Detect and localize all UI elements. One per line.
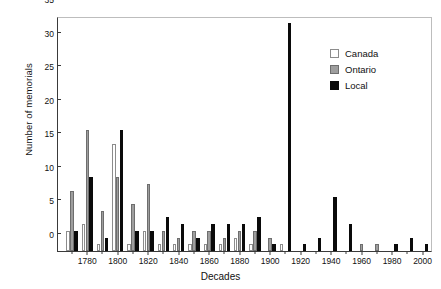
y-tick-label: 5 [49,196,58,206]
x-axis-label: Decades [0,271,441,282]
y-axis-label: Number of memorials [23,30,34,190]
bar-local-2000 [425,244,428,251]
bar-local-1860 [211,224,214,251]
bar-canada-1830 [158,244,161,251]
y-tick-20: 20 [45,90,58,108]
bar-local-1920 [303,244,306,251]
bar-ontario-1780 [86,130,89,251]
y-tick-mark [58,233,61,234]
bar-local-1900 [272,244,275,251]
y-tick-5: 5 [49,190,58,208]
legend-label-canada: Canada [345,48,378,59]
chart-legend: CanadaOntarioLocal [330,48,378,96]
y-tick-10: 10 [45,157,58,175]
x-tick-label-1940: 1940 [322,256,341,266]
y-tick-mark [58,32,61,33]
x-tick-1900 [270,251,271,255]
x-tick-1880 [239,251,240,255]
y-tick-label: 25 [45,62,58,72]
bar-local-1940 [333,197,336,251]
x-tick-1940 [331,251,332,255]
x-tick-1870 [224,251,225,254]
bar-canada-1910 [280,244,283,251]
x-tick-2000 [422,251,423,255]
x-tick-1920 [300,251,301,255]
x-tick-label-1880: 1880 [230,256,249,266]
y-tick-label: 0 [49,230,58,240]
bar-ontario-1810 [131,204,134,251]
x-tick-label-1980: 1980 [383,256,402,266]
x-tick-1770 [71,251,72,254]
bar-canada-1790 [97,244,100,251]
x-tick-1960 [361,251,362,255]
bar-local-1790 [105,238,108,251]
x-tick-1860 [209,251,210,255]
bar-ontario-1890 [253,231,256,251]
x-tick-1820 [148,251,149,255]
bar-ontario-1860 [207,231,210,251]
x-tick-1910 [285,251,286,254]
bar-local-1910 [288,23,291,251]
y-tick-30: 30 [45,23,58,41]
x-tick-label-1820: 1820 [139,256,158,266]
bar-canada-1800 [112,144,115,251]
bar-local-1770 [74,231,77,251]
x-tick-1790 [102,251,103,254]
bar-canada-1850 [188,244,191,251]
bar-ontario-1830 [162,231,165,251]
bar-canada-1770 [66,231,69,251]
legend-label-ontario: Ontario [345,64,376,75]
x-tick-label-1800: 1800 [108,256,127,266]
x-tick-label-1920: 1920 [291,256,310,266]
x-tick-1830 [163,251,164,254]
bar-canada-1820 [143,231,146,251]
y-tick-mark [58,199,61,200]
bar-canada-1870 [219,244,222,251]
bar-ontario-1840 [177,238,180,251]
bar-local-1990 [410,238,413,251]
bar-canada-1890 [249,244,252,251]
x-tick-label-1900: 1900 [261,256,280,266]
bar-local-1880 [242,224,245,251]
x-tick-1980 [392,251,393,255]
x-tick-label-1960: 1960 [352,256,371,266]
bar-canada-1780 [82,224,85,251]
bar-canada-1880 [234,238,237,251]
x-tick-1970 [376,251,377,254]
y-tick-mark [58,65,61,66]
y-tick-35: 35 [45,0,58,7]
bar-canada-1860 [204,244,207,251]
bar-ontario-1790 [101,211,104,251]
x-tick-1780 [87,251,88,255]
x-tick-1990 [407,251,408,254]
x-tick-1890 [254,251,255,254]
bar-local-1980 [394,244,397,251]
x-tick-1800 [117,251,118,255]
bar-local-1890 [257,217,260,251]
bar-local-1780 [89,177,92,251]
y-tick-15: 15 [45,123,58,141]
bar-local-1850 [196,238,199,251]
bar-ontario-1850 [192,231,195,251]
legend-swatch-ontario [330,65,339,74]
bar-ontario-1820 [147,184,150,251]
x-tick-1810 [132,251,133,254]
legend-item-canada: Canada [330,48,378,59]
bar-local-1830 [166,217,169,251]
x-tick-1840 [178,251,179,255]
bar-canada-1840 [173,244,176,251]
legend-item-local: Local [330,80,378,91]
y-tick-mark [58,99,61,100]
bar-ontario-1900 [268,238,271,251]
legend-label-local: Local [345,80,368,91]
bar-ontario-1770 [70,191,73,251]
bar-ontario-1880 [238,231,241,251]
y-tick-label: 35 [45,0,58,5]
bar-ontario-1970 [375,244,378,251]
bar-local-1820 [150,231,153,251]
x-tick-1930 [315,251,316,254]
x-tick-label-1840: 1840 [169,256,188,266]
y-tick-label: 15 [45,129,58,139]
bar-local-1810 [135,231,138,251]
x-tick-label-1780: 1780 [78,256,97,266]
